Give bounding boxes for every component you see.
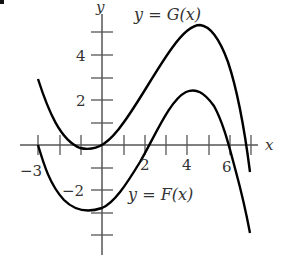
x-axis-label: x	[265, 136, 274, 154]
chart-canvas: y x −3 2 4 6 4 2 −2 y = G(x) y = F(x)	[0, 0, 284, 258]
series-f-label: y = F(x)	[127, 185, 193, 204]
x-tick-label-neg3: −3	[20, 162, 42, 180]
x-tick-label-4: 4	[182, 156, 192, 174]
series-g-label: y = G(x)	[133, 5, 201, 24]
y-axis-label: y	[95, 0, 105, 16]
x-tick-label-6: 6	[222, 158, 232, 176]
x-tick-label-2: 2	[140, 156, 150, 174]
y-tick-label-4: 4	[76, 47, 86, 65]
y-tick-label-neg2: −2	[62, 182, 84, 200]
y-tick-label-2: 2	[76, 92, 86, 110]
series-g-curve	[38, 25, 250, 172]
corner-mark	[0, 0, 4, 4]
